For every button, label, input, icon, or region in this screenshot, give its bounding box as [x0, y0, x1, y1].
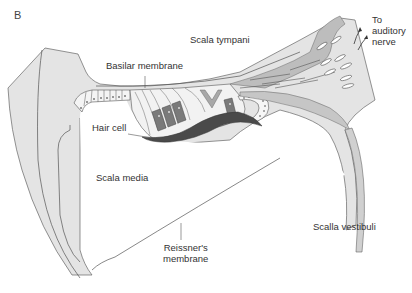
label-scala-vestibuli: Scalla vestibuli: [313, 221, 376, 232]
label-reissners-membrane: Reissner's membrane: [163, 242, 208, 264]
label-scala-tympani: Scala tympani: [190, 34, 250, 45]
label-scala-media: Scala media: [96, 172, 148, 183]
label-basilar-membrane: Basilar membrane: [106, 60, 183, 71]
label-reissners-line2: membrane: [163, 253, 208, 264]
label-hair-cell: Hair cell: [92, 122, 126, 133]
label-auditory-line2: auditory: [372, 25, 406, 36]
panel-label: B: [14, 10, 21, 21]
label-auditory-line3: nerve: [372, 36, 406, 47]
label-reissners-line1: Reissner's: [163, 242, 208, 253]
label-auditory-line1: To: [372, 14, 406, 25]
label-to-auditory-nerve: To auditory nerve: [372, 14, 406, 47]
